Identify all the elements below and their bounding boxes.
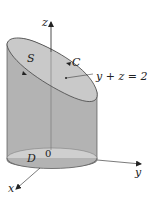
x-axis-label: x xyxy=(8,182,15,195)
origin-label: 0 xyxy=(45,148,51,159)
region-label: D xyxy=(26,152,36,165)
cylinder-diagram: z y x S C y + z = 2 D 0 xyxy=(0,0,156,199)
surface-label: S xyxy=(27,52,35,65)
y-axis xyxy=(97,160,141,164)
x-axis xyxy=(16,168,40,189)
base-front-rim xyxy=(7,158,97,169)
curve-label: C xyxy=(72,56,81,69)
plane-equation-label: y + z = 2 xyxy=(95,70,147,83)
y-axis-label: y xyxy=(134,166,142,179)
z-axis-label: z xyxy=(41,16,48,29)
